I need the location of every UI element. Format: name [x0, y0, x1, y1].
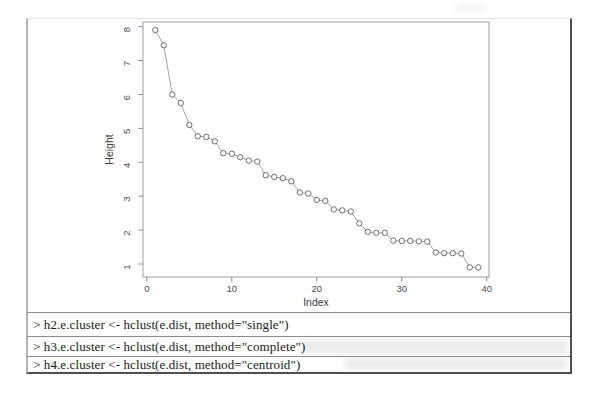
data-point-marker: [212, 139, 217, 144]
r-code-hclust-centroid: > h4.e.cluster <- hclust(e.dist, method=…: [33, 357, 300, 373]
data-point-marker: [263, 173, 268, 178]
data-point-marker: [374, 230, 379, 235]
data-point-marker: [195, 134, 200, 139]
data-point-marker: [459, 251, 464, 256]
x-axis-tick-label: 30: [397, 283, 408, 294]
data-point-marker: [450, 251, 455, 256]
data-point-marker: [246, 158, 251, 163]
data-point-marker: [323, 198, 328, 203]
data-point-marker: [306, 191, 311, 196]
console-line-row: > h4.e.cluster <- hclust(e.dist, method=…: [27, 356, 570, 373]
height-curve: [155, 30, 478, 267]
data-point-marker: [340, 208, 345, 213]
y-axis-tick-label: 6: [121, 95, 132, 100]
console-line-row: > h3.e.cluster <- hclust(e.dist, method=…: [27, 336, 570, 356]
y-axis-tick-label: 1: [121, 264, 132, 269]
y-axis-tick-label: 4: [121, 163, 132, 168]
data-point-marker: [399, 238, 404, 243]
data-point-marker: [391, 238, 396, 243]
data-point-marker: [433, 250, 438, 255]
x-axis-title: Index: [303, 296, 329, 308]
data-point-marker: [153, 27, 158, 32]
x-axis-tick-label: 20: [312, 283, 323, 294]
r-code-hclust-single: > h2.e.cluster <- hclust(e.dist, method=…: [33, 317, 289, 333]
y-axis-tick-label: 2: [121, 230, 132, 235]
data-point-marker: [289, 179, 294, 184]
data-point-marker: [238, 155, 243, 160]
data-point-marker: [255, 159, 260, 164]
plot-box: [143, 22, 489, 277]
x-axis-tick-label: 0: [144, 283, 149, 294]
cluster-height-plot: 01020304012345678IndexHeight: [0, 0, 596, 312]
x-axis-tick-label: 10: [227, 283, 238, 294]
y-axis-tick-label: 7: [121, 61, 132, 66]
data-point-marker: [170, 92, 175, 97]
y-axis-tick-label: 5: [121, 129, 132, 134]
y-axis-title: Height: [103, 134, 115, 164]
data-point-marker: [467, 265, 472, 270]
x-axis-tick-label: 40: [482, 283, 493, 294]
screenshot-page: 01020304012345678IndexHeight > h2.e.clus…: [0, 0, 596, 394]
data-point-marker: [187, 122, 192, 127]
data-point-marker: [280, 176, 285, 181]
data-point-marker: [229, 151, 234, 156]
data-point-marker: [314, 197, 319, 202]
data-point-marker: [476, 265, 481, 270]
r-code-hclust-complete: > h3.e.cluster <- hclust(e.dist, method=…: [33, 339, 305, 355]
data-point-marker: [331, 207, 336, 212]
data-point-marker: [161, 43, 166, 48]
data-point-marker: [272, 174, 277, 179]
data-point-marker: [442, 251, 447, 256]
console-line-row: > h2.e.cluster <- hclust(e.dist, method=…: [27, 312, 570, 336]
data-point-marker: [178, 100, 183, 105]
data-point-marker: [425, 239, 430, 244]
data-point-marker: [221, 150, 226, 155]
data-point-marker: [382, 230, 387, 235]
data-point-marker: [416, 239, 421, 244]
data-point-marker: [297, 190, 302, 195]
y-axis-tick-label: 3: [121, 197, 132, 202]
data-point-marker: [357, 221, 362, 226]
data-point-marker: [348, 209, 353, 214]
data-point-marker: [408, 238, 413, 243]
data-point-marker: [204, 134, 209, 139]
y-axis-tick-label: 8: [121, 27, 132, 32]
data-point-marker: [365, 229, 370, 234]
